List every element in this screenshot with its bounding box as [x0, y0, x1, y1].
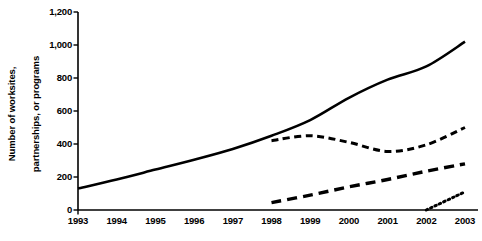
plot-area: [0, 0, 482, 241]
series-line-worksites: [78, 42, 465, 189]
series-line-programs: [272, 164, 466, 203]
series-line-new-initiatives: [426, 192, 465, 210]
series-line-partnerships: [272, 128, 466, 152]
chart-figure: Number of worksites, partnerships, or pr…: [0, 0, 482, 241]
